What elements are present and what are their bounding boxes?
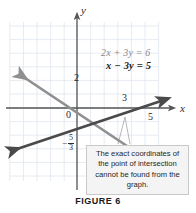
callout-note: The exact coordinates of the point of in…: [86, 145, 189, 195]
fraction-denominator: 3: [68, 144, 74, 152]
tick-label-x-3: 3: [122, 93, 127, 103]
figure-container: y x 0 2 3 5 − 5 3 2x + 3y = 6 x − 3y = 5…: [0, 0, 196, 213]
fraction-numerator: 5: [68, 134, 74, 142]
x-axis-label: x: [180, 103, 185, 114]
equation-group: 2x + 3y = 6 x − 3y = 5: [101, 47, 151, 71]
equation-line-1: 2x + 3y = 6: [101, 47, 151, 58]
tick-label-y-negative-five-thirds: − 5 3: [62, 134, 74, 152]
fraction-minus-sign: −: [62, 139, 67, 148]
tick-label-x-5: 5: [148, 112, 153, 122]
figure-caption: FIGURE 6: [0, 196, 196, 206]
fraction: 5 3: [68, 134, 74, 152]
y-axis-label: y: [81, 5, 86, 16]
equation-line-2: x − 3y = 5: [106, 60, 151, 71]
origin-label: 0: [66, 110, 71, 120]
tick-label-y-2: 2: [74, 73, 79, 83]
